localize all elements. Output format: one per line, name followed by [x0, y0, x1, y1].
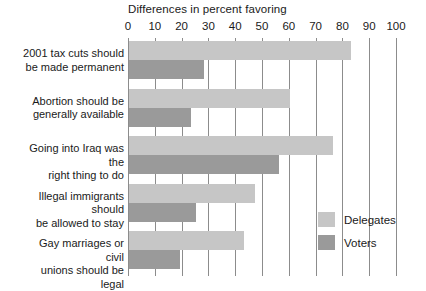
legend-label: Voters [344, 237, 377, 249]
bar-voters-4 [129, 250, 180, 269]
legend-swatch-icon [318, 212, 335, 227]
chart-legend: DelegatesVoters [318, 212, 396, 258]
category-label-line: unions should be legal [18, 264, 124, 291]
bar-delegates-3 [129, 184, 255, 203]
bar-delegates-1 [129, 89, 290, 108]
category-label-1: Abortion should begenerally available [18, 95, 124, 122]
category-label-line: right thing to do [18, 169, 124, 183]
category-label-line: be made permanent [18, 61, 124, 75]
x-axis-tick-10: 10 [148, 20, 161, 32]
category-label-line: be allowed to stay [18, 217, 124, 231]
x-axis-tick-50: 50 [256, 20, 269, 32]
x-axis-tick-90: 90 [363, 20, 376, 32]
category-label-line: Abortion should be [18, 95, 124, 109]
category-label-4: Gay marriages or civilunions should be l… [18, 237, 124, 291]
chart-title: Differences in percent favoring [128, 3, 287, 15]
legend-item-voters[interactable]: Voters [318, 235, 396, 250]
category-label-0: 2001 tax cuts shouldbe made permanent [18, 47, 124, 74]
x-axis-tick-60: 60 [282, 20, 295, 32]
bar-delegates-0 [129, 41, 351, 60]
gridline-100 [396, 38, 397, 276]
category-label-2: Going into Iraq was theright thing to do [18, 142, 124, 183]
legend-swatch-icon [318, 235, 335, 250]
bar-delegates-4 [129, 231, 244, 250]
legend-label: Delegates [344, 214, 396, 226]
gridline-60 [289, 38, 290, 276]
x-axis-tick-70: 70 [309, 20, 322, 32]
bar-voters-0 [129, 60, 204, 79]
category-label-line: Illegal immigrants should [18, 190, 124, 217]
x-axis-tick-80: 80 [336, 20, 349, 32]
bar-voters-3 [129, 203, 196, 222]
gridline-70 [316, 38, 317, 276]
x-axis-tick-0: 0 [125, 20, 131, 32]
category-label-line: Going into Iraq was the [18, 142, 124, 169]
legend-item-delegates[interactable]: Delegates [318, 212, 396, 227]
category-label-line: Gay marriages or civil [18, 237, 124, 264]
bar-voters-1 [129, 108, 191, 127]
category-label-line: generally available [18, 108, 124, 122]
category-label-3: Illegal immigrants shouldbe allowed to s… [18, 190, 124, 231]
x-axis-tick-40: 40 [229, 20, 242, 32]
bar-delegates-2 [129, 136, 333, 155]
bar-voters-2 [129, 155, 279, 174]
x-axis-tick-30: 30 [202, 20, 215, 32]
x-axis-tick-labels: 0102030405060708090100 [0, 20, 426, 36]
x-axis-tick-20: 20 [175, 20, 188, 32]
x-axis-tick-100: 100 [386, 20, 405, 32]
category-label-line: 2001 tax cuts should [18, 47, 124, 61]
